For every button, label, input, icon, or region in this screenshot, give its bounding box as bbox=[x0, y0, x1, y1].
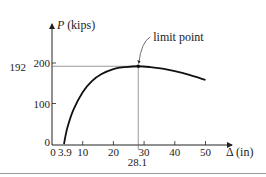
y-extra-label: 192 bbox=[10, 61, 27, 73]
series-line bbox=[64, 66, 206, 144]
x-tick-label: 40 bbox=[169, 146, 181, 158]
limit-point-marker bbox=[136, 64, 140, 68]
x-extra-label: 3.9 bbox=[58, 146, 72, 158]
x-axis-label: Δ (in) bbox=[226, 145, 253, 159]
y-axis-label: P (kips) bbox=[56, 18, 95, 32]
x-tick-label: 0 bbox=[50, 146, 56, 158]
x-extra-label: 28.1 bbox=[128, 156, 147, 168]
chart: 1020304050001002003.928.1192limit pointP… bbox=[0, 0, 266, 177]
annotation-arrow bbox=[139, 37, 151, 63]
x-tick-label: 50 bbox=[200, 146, 212, 158]
y-tick-label: 200 bbox=[34, 57, 51, 69]
x-tick-label: 20 bbox=[108, 146, 120, 158]
x-tick-label: 10 bbox=[77, 146, 89, 158]
y-tick-label: 0 bbox=[45, 136, 51, 148]
bottom-rule bbox=[0, 173, 266, 174]
annotation-label: limit point bbox=[153, 30, 204, 44]
y-tick-label: 100 bbox=[34, 98, 51, 110]
